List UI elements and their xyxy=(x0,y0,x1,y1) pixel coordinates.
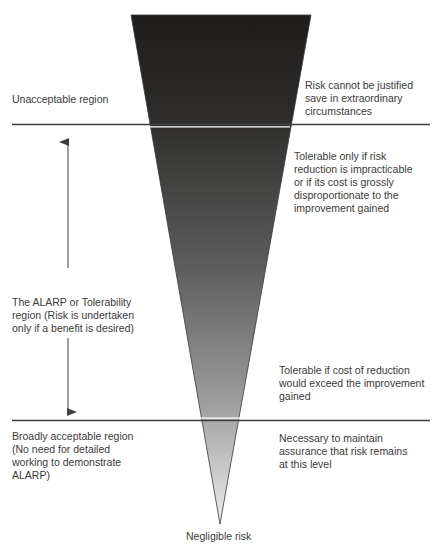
label-broadly-acceptable-region: Broadly acceptable region (No need for d… xyxy=(12,430,133,482)
label-tolerable-if-cost: Tolerable if cost of reduction would exc… xyxy=(279,364,424,403)
label-risk-cannot-be-justified: Risk cannot be justified save in extraor… xyxy=(305,79,413,118)
label-tolerable-only-if: Tolerable only if risk reduction is impr… xyxy=(294,150,412,215)
label-alarp-region: The ALARP or Tolerability region (Risk i… xyxy=(12,296,134,335)
alarp-diagram: Unacceptable region The ALARP or Tolerab… xyxy=(0,0,443,551)
label-necessary-to-maintain: Necessary to maintain assurance that ris… xyxy=(279,432,407,471)
label-negligible-risk: Negligible risk xyxy=(186,530,251,543)
label-unacceptable-region: Unacceptable region xyxy=(12,93,108,106)
